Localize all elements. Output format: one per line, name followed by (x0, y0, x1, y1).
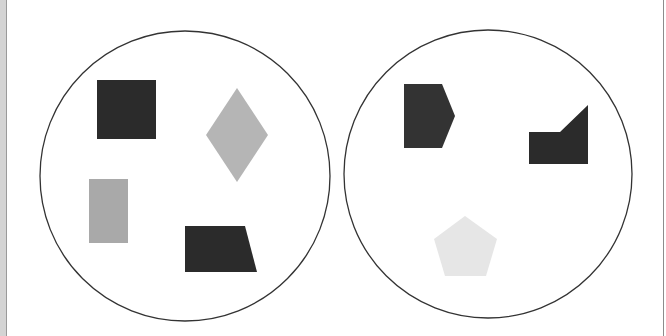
left-panel (40, 31, 330, 321)
right-panel (344, 30, 632, 318)
pentagon-shape (434, 216, 497, 276)
square-shape (97, 80, 156, 139)
figure-canvas (0, 0, 666, 336)
trapezoid-shape (185, 226, 257, 272)
rectangle-shape (89, 179, 128, 243)
left-circle (40, 31, 330, 321)
notched-rectangle-shape (529, 105, 588, 164)
pentagon-arrow-shape (404, 84, 455, 148)
diamond-shape (206, 88, 268, 182)
right-circle (344, 30, 632, 318)
